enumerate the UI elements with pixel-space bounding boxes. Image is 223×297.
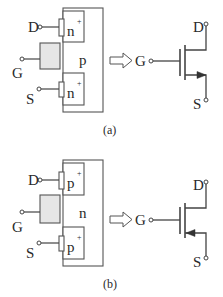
nmos-symbol: G D S [135, 19, 208, 112]
drain-contact-b [59, 172, 64, 189]
symbol-gate-terminal-a [149, 59, 153, 63]
mosfet-diagram: D G S n + n + p G D S (a) [0, 0, 223, 297]
drain-contact-a [59, 19, 64, 36]
gate-electrode-b [40, 195, 60, 223]
substrate-label-a: p [79, 52, 87, 68]
source-region-label-a: n [67, 85, 75, 101]
symbol-gate-terminal-b [149, 218, 153, 222]
symbol-source-terminal-b [204, 256, 208, 260]
gate-terminal-a [20, 57, 24, 61]
caption-a: (a) [103, 123, 116, 137]
cross-section-b: D G S p + p + n [12, 160, 103, 266]
source-label-b: S [26, 245, 34, 261]
gate-electrode-a [40, 43, 60, 69]
source-label-a: S [26, 91, 34, 107]
symbol-source-wire-a [185, 75, 206, 98]
source-terminal-a [37, 87, 41, 91]
drain-label-a: D [28, 19, 39, 35]
symbol-drain-terminal-b [204, 180, 208, 184]
symbol-gate-label-b: G [135, 212, 146, 228]
drain-label-b: D [28, 172, 39, 188]
symbol-drain-label-a: D [193, 19, 204, 35]
symbol-source-label-a: S [193, 96, 201, 112]
substrate-label-b: n [79, 205, 87, 221]
source-terminal-b [37, 241, 41, 245]
source-region-sup-b: + [77, 233, 82, 242]
gate-label-b: G [12, 219, 23, 235]
source-contact-b [59, 236, 64, 251]
figure-b: D G S p + p + n G D S (b) [12, 160, 208, 291]
symbol-source-wire-b [185, 233, 206, 256]
drain-region-label-b: p [67, 175, 75, 191]
gate-label-a: G [12, 65, 23, 81]
symbol-arrow-in-icon [186, 230, 195, 237]
hollow-right-arrow-icon [110, 53, 132, 68]
source-contact-a [59, 82, 64, 97]
symbol-source-terminal-a [204, 98, 208, 102]
symbol-arrow-out-icon [197, 72, 206, 79]
cross-section-a: D G S n + n + p [12, 8, 103, 112]
symbol-gate-label-a: G [135, 53, 146, 69]
source-region-label-b: p [67, 239, 75, 255]
figure-a: D G S n + n + p G D S (a) [12, 8, 208, 137]
symbol-drain-label-b: D [193, 177, 204, 193]
symbol-drain-terminal-a [204, 22, 208, 26]
pmos-symbol: G D S [135, 177, 208, 270]
source-region-sup-a: + [77, 79, 82, 88]
hollow-right-arrow-icon [110, 212, 132, 227]
drain-region-sup-b: + [77, 169, 82, 178]
caption-b: (b) [103, 277, 117, 291]
drain-region-label-a: n [67, 23, 75, 39]
gate-terminal-b [20, 210, 24, 214]
symbol-source-label-b: S [193, 254, 201, 270]
drain-region-sup-a: + [77, 17, 82, 26]
